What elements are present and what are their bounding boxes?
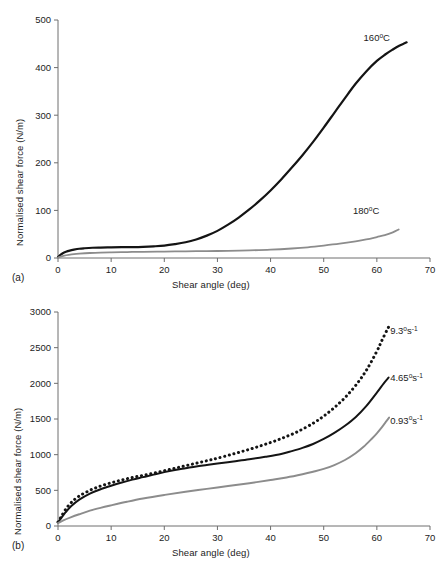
y-tick-label: 3000 xyxy=(30,306,51,317)
y-tick-label: 300 xyxy=(35,110,51,121)
plot-area-a: 0100200300400500010203040506070160oC180o… xyxy=(0,0,444,290)
x-tick-label: 50 xyxy=(318,264,329,275)
y-tick-label: 500 xyxy=(35,14,51,25)
y-tick-label: 2500 xyxy=(30,342,51,353)
series-line-4.65s xyxy=(58,378,389,523)
x-tick-label: 0 xyxy=(55,532,60,543)
x-tick-label: 40 xyxy=(265,532,276,543)
plot-area-b: 0500100015002000250030000102030405060709… xyxy=(0,290,444,578)
y-tick-label: 100 xyxy=(35,205,51,216)
y-axis-title-a: Normalised shear force (N/m) xyxy=(14,119,25,246)
x-axis-title-a: Shear angle (deg) xyxy=(172,279,250,290)
x-tick-label: 70 xyxy=(425,532,436,543)
x-tick-label: 20 xyxy=(159,264,170,275)
series-line-160C xyxy=(58,42,407,257)
series-label-180C: 180oC xyxy=(353,205,380,216)
x-axis-title-b: Shear angle (deg) xyxy=(172,547,250,558)
series-label-4.65s: 4.65os-1 xyxy=(390,372,423,383)
y-tick-label: 0 xyxy=(46,520,51,531)
series-label-0.93s: 0.93os-1 xyxy=(390,414,423,425)
y-tick-label: 1500 xyxy=(30,413,51,424)
x-tick-label: 20 xyxy=(159,532,170,543)
y-tick-label: 2000 xyxy=(30,378,51,389)
x-tick-label: 30 xyxy=(212,264,223,275)
series-line-0.93s xyxy=(58,418,389,524)
figure-container: 0100200300400500010203040506070160oC180o… xyxy=(0,0,444,578)
series-label-160C: 160oC xyxy=(364,32,391,43)
y-axis-title-b: Normalised shear force (N/m) xyxy=(12,408,23,535)
x-tick-label: 10 xyxy=(106,264,117,275)
x-tick-label: 10 xyxy=(106,532,117,543)
panel-b-label: (b) xyxy=(12,540,24,551)
x-tick-label: 50 xyxy=(318,532,329,543)
x-tick-label: 60 xyxy=(372,264,383,275)
chart-panel-b: 0500100015002000250030000102030405060709… xyxy=(0,290,444,578)
series-line-9.3s xyxy=(58,325,390,522)
panel-a-label: (a) xyxy=(12,272,24,283)
y-tick-label: 0 xyxy=(46,252,51,263)
x-tick-label: 0 xyxy=(55,264,60,275)
x-tick-label: 70 xyxy=(425,264,436,275)
y-tick-label: 500 xyxy=(35,485,51,496)
x-tick-label: 60 xyxy=(372,532,383,543)
y-tick-label: 200 xyxy=(35,157,51,168)
series-label-9.3s: 9.3os-1 xyxy=(390,325,418,336)
series-line-180C xyxy=(58,229,399,257)
chart-panel-a: 0100200300400500010203040506070160oC180o… xyxy=(0,0,444,290)
x-tick-label: 30 xyxy=(212,532,223,543)
y-tick-label: 1000 xyxy=(30,449,51,460)
y-tick-label: 400 xyxy=(35,62,51,73)
x-tick-label: 40 xyxy=(265,264,276,275)
